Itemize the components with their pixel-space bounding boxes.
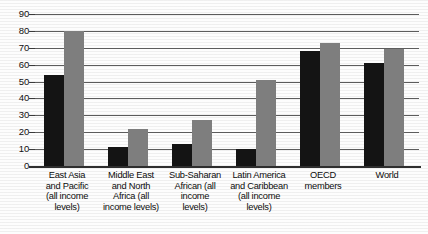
bar <box>256 80 276 166</box>
bar <box>64 31 84 166</box>
bar <box>236 149 256 166</box>
x-axis-category-label-line: members <box>283 181 363 192</box>
bar-group <box>35 14 99 166</box>
y-axis-tick-label: 90 <box>19 9 29 19</box>
y-axis-tick-label: 40 <box>19 93 29 103</box>
bar-group <box>291 14 355 166</box>
y-axis-tick-label: 50 <box>19 77 29 87</box>
bar <box>384 49 404 166</box>
y-axis-tick-label: 80 <box>19 26 29 36</box>
plot-area <box>35 14 419 166</box>
x-axis-category-labels: East Asiaand Pacific(all incomelevels)Mi… <box>35 170 419 232</box>
bar <box>108 147 128 166</box>
y-axis-tick-label: 30 <box>19 110 29 120</box>
y-axis-tick-label: 20 <box>19 127 29 137</box>
bar-chart: 0102030405060708090 East Asiaand Pacific… <box>0 0 428 234</box>
bar <box>128 129 148 166</box>
y-axis-tick-label: 70 <box>19 43 29 53</box>
bar <box>44 75 64 166</box>
bar <box>192 120 212 166</box>
bar-group <box>227 14 291 166</box>
y-axis-tick-label: 10 <box>19 144 29 154</box>
bar-group <box>355 14 419 166</box>
bar <box>320 43 340 166</box>
bar <box>364 63 384 166</box>
y-axis-tick-labels: 0102030405060708090 <box>0 0 29 180</box>
y-axis-tick-label: 60 <box>19 60 29 70</box>
bar-group <box>99 14 163 166</box>
x-axis-category-label: World <box>347 170 427 181</box>
bar-group <box>163 14 227 166</box>
x-axis-category-label-line: World <box>347 170 427 181</box>
x-axis-category-label-line: (all income <box>219 191 299 202</box>
x-axis-category-label-line: levels) <box>219 202 299 213</box>
bar <box>172 144 192 166</box>
bar <box>300 51 320 166</box>
x-axis-line <box>29 166 421 168</box>
